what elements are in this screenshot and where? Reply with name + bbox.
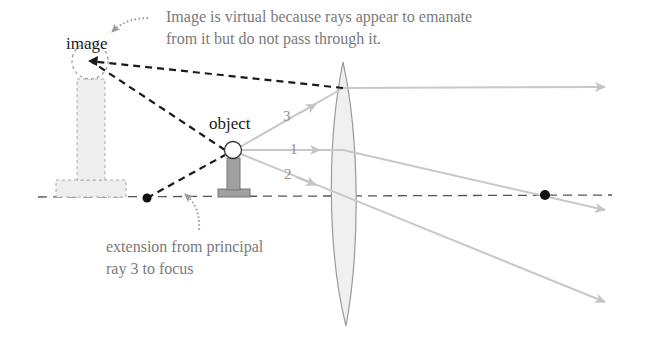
extension-note-line2: ray 3 to focus <box>106 260 194 278</box>
ray-3-label: 3 <box>283 108 291 125</box>
object-label: object <box>209 114 251 134</box>
focal-point-right <box>540 190 550 200</box>
ray-1-label: 1 <box>290 141 298 158</box>
image-label: image <box>66 34 108 54</box>
focal-point-left <box>143 194 152 203</box>
convex-lens <box>331 62 356 326</box>
principal-rays <box>240 87 605 302</box>
virtual-image <box>56 43 126 197</box>
virtual-image-note-line1: Image is virtual because rays appear to … <box>166 8 472 26</box>
virtual-image-note-line2: from it but do not pass through it. <box>166 30 381 48</box>
annotation-arrow-virtual-image <box>114 18 148 30</box>
annotation-arrow-extension <box>187 196 199 230</box>
ray-2-label: 2 <box>284 166 292 183</box>
extension-note-line1: extension from principal <box>106 238 263 256</box>
